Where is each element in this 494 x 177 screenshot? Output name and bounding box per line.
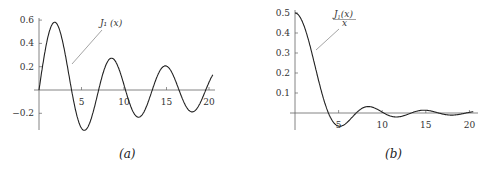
caption-b: (b)	[385, 147, 402, 161]
panel-a-annotation-leader	[72, 30, 102, 64]
x-tick-label: 15	[161, 97, 173, 107]
y-tick-label: 0.3	[276, 48, 291, 58]
x-tick-label: 15	[420, 120, 432, 130]
y-tick-label: 0.5	[276, 8, 291, 18]
x-tick-label: 5	[79, 97, 85, 107]
panel-a-curve	[39, 22, 213, 130]
panel-a-annotation: J₁ (x)	[98, 18, 123, 28]
y-tick-label: −0.2	[12, 108, 34, 118]
x-tick-label: 20	[203, 97, 215, 107]
y-tick-label: 0.6	[20, 15, 35, 25]
y-tick-label: 0.2	[20, 62, 34, 72]
panel-b: 0.50.40.30.20.1 5101520 J1(x) x	[276, 8, 478, 130]
y-tick-label: 0.4	[20, 38, 35, 48]
panel-b-curve	[295, 13, 473, 126]
figure: 0.60.40.2−0.2 5101520 J₁ (x) 0.50.40.30.…	[0, 0, 494, 177]
x-tick-label: 10	[376, 120, 388, 130]
y-tick-label: 0.2	[276, 68, 290, 78]
panel-a: 0.60.40.2−0.2 5101520 J₁ (x)	[12, 15, 215, 130]
caption-a: (a)	[119, 147, 136, 161]
panel-b-annotation-leader	[316, 29, 339, 50]
y-tick-label: 0.4	[276, 28, 291, 38]
panel-b-annotation: J1(x) x	[332, 9, 356, 28]
y-tick-label: 0.1	[276, 88, 290, 98]
x-tick-label: 20	[464, 120, 476, 130]
svg-text:x: x	[342, 18, 347, 28]
